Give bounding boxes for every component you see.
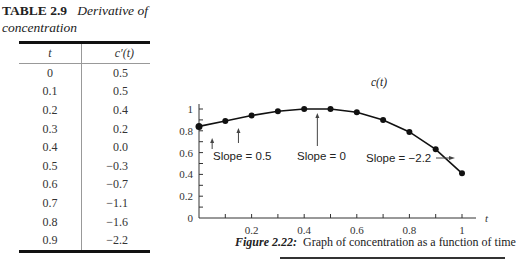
x-axis-label: t [485, 212, 489, 224]
slope-annotation: Slope = 0 [297, 150, 346, 162]
data-point [433, 146, 439, 152]
y-tick-label: 0.8 [179, 125, 193, 137]
bottom-rule [280, 257, 505, 259]
data-point [222, 118, 228, 124]
data-point [328, 106, 334, 112]
figure-caption: Figure 2.22: Graph of concentration as a… [235, 235, 516, 250]
y-tick-label: 1 [188, 103, 194, 115]
data-point [354, 109, 360, 115]
data-point [406, 129, 412, 135]
slope-annotation: Slope = −2.2 [366, 152, 431, 164]
figure-caption-text: Graph of concentration as a function of … [303, 235, 516, 249]
annotations: Slope = 0.5Slope = 0Slope = −2.2c(t) [210, 76, 455, 164]
y-tick-label: 0.6 [179, 147, 193, 159]
figure-number: Figure 2.22: [235, 235, 297, 249]
data-point [380, 117, 386, 123]
curve-label: c(t) [371, 76, 387, 89]
y-tick-label: 0 [188, 212, 194, 224]
data-point [301, 106, 307, 112]
y-tick-label: 0.4 [179, 168, 193, 180]
slope-annotation: Slope = 0.5 [213, 150, 272, 162]
data-point [459, 170, 465, 176]
data-point [196, 123, 203, 130]
data-point [275, 108, 281, 114]
y-tick-label: 0.2 [179, 190, 193, 202]
data-point [249, 113, 255, 119]
